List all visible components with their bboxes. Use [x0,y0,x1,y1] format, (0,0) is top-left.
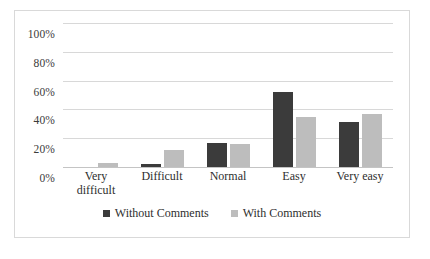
y-axis-tick-label: 20% [34,144,55,156]
y-axis-tick-label: 0% [39,173,55,185]
legend-label: With Comments [243,207,322,219]
bar[interactable] [362,114,382,167]
bar[interactable] [273,92,293,167]
x-axis-label: Verydifficult [63,169,129,197]
x-axis-label-line: Normal [195,169,261,183]
plot-area [63,23,393,167]
chart-frame: 0%20%40%60%80%100% VerydifficultDifficul… [14,10,410,238]
y-axis-tick-label: 60% [34,87,55,99]
chart-legend: Without CommentsWith Comments [15,207,409,219]
bar[interactable] [230,144,250,167]
bar[interactable] [141,164,161,167]
x-axis-label-line: Very [63,169,129,183]
x-axis-label-line: Very easy [327,169,393,183]
x-axis-label: Difficult [129,169,195,183]
legend-swatch-icon [231,210,238,217]
y-axis: 0%20%40%60%80%100% [15,23,59,167]
x-axis-label-line: difficult [63,183,129,197]
x-axis-category-labels: VerydifficultDifficultNormalEasyVery eas… [63,169,393,207]
bar[interactable] [339,122,359,167]
y-axis-tick-label: 40% [34,116,55,128]
x-axis-label: Easy [261,169,327,183]
bar[interactable] [164,150,184,167]
bar-group [327,23,393,167]
bar[interactable] [207,143,227,167]
bar[interactable] [98,163,118,167]
bar-group [63,23,129,167]
bar[interactable] [296,117,316,167]
y-axis-tick-label: 100% [28,29,55,41]
bar-group [261,23,327,167]
x-axis-label: Normal [195,169,261,183]
bar-group [195,23,261,167]
legend-item[interactable]: Without Comments [103,207,209,219]
x-axis-label-line: Easy [261,169,327,183]
y-axis-tick-label: 80% [34,58,55,70]
legend-label: Without Comments [115,207,209,219]
legend-item[interactable]: With Comments [231,207,322,219]
x-axis-label-line: Difficult [129,169,195,183]
legend-swatch-icon [103,210,110,217]
bar-group [129,23,195,167]
gridline-0% [63,167,393,168]
x-axis-label: Very easy [327,169,393,183]
bar-series-layer [63,23,393,167]
